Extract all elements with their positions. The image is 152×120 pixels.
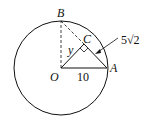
arrowhead-icon: [95, 49, 101, 54]
segment-bc-dashed: [61, 21, 84, 44]
label-y: y: [67, 43, 74, 57]
label-b: B: [57, 6, 65, 20]
label-o: O: [50, 70, 59, 84]
label-c: C: [83, 32, 92, 46]
pointer-line: [98, 38, 118, 52]
right-angle-mark: [80, 48, 88, 52]
label-oa-length: 10: [77, 70, 89, 84]
label-ca-length: 5√2: [121, 33, 140, 47]
geometry-diagram: B C O A y 10 5√2: [0, 0, 152, 120]
label-a: A: [109, 61, 118, 75]
